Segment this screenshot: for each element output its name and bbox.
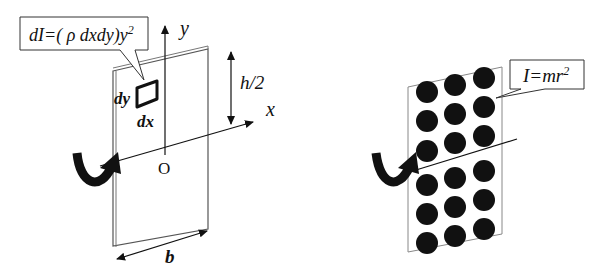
particle [416, 174, 438, 196]
particle [444, 196, 466, 218]
x-axis-label: x [265, 98, 275, 120]
callout-exponent: 2 [563, 64, 569, 78]
particle [473, 96, 495, 118]
particle-inertia-callout: I=mr2 [496, 60, 584, 98]
callout-exponent: 2 [128, 23, 134, 37]
particle [444, 103, 466, 125]
particle [416, 232, 438, 254]
particle [444, 167, 466, 189]
particle [444, 132, 466, 154]
plate [113, 46, 208, 247]
particle [473, 67, 495, 89]
element-dy-label: dy [114, 89, 131, 108]
svg-text:I=mr2: I=mr2 [522, 64, 569, 86]
particle [416, 81, 438, 103]
callout-formula: I=mr [522, 65, 564, 86]
particle [473, 160, 495, 182]
particle [416, 203, 438, 225]
callout-formula: dI=( ρ dxdy)y [29, 25, 128, 46]
y-axis-label: y [178, 17, 189, 40]
particle [416, 140, 438, 162]
particle [444, 225, 466, 247]
continuous-plate-panel: y x O h/2 dy dx dI=( ρ dxdy)y2 b [20, 17, 275, 267]
particle [444, 74, 466, 96]
svg-text:dI=( ρ dxdy)y2: dI=( ρ dxdy)y2 [29, 23, 134, 46]
particle [416, 110, 438, 132]
origin-label: O [158, 159, 170, 178]
particle [473, 189, 495, 211]
width-label: b [165, 246, 175, 267]
element-dx-label: dx [137, 112, 155, 131]
particle-plate-panel: I=mr2 [376, 60, 584, 254]
moment-of-inertia-diagram: y x O h/2 dy dx dI=( ρ dxdy)y2 b [0, 0, 611, 274]
particle [473, 218, 495, 240]
particle [473, 125, 495, 147]
half-height-label: h/2 [240, 72, 265, 93]
